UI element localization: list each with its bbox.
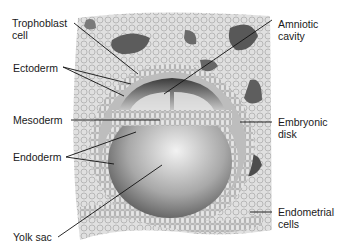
embryo-diagram: Trophoblast cell Ectoderm Mesoderm Endod… — [0, 0, 345, 251]
label-yolk-sac: Yolk sac — [13, 231, 52, 243]
label-mesoderm: Mesoderm — [13, 114, 63, 126]
label-endometrial-cells: Endometrial cells — [278, 206, 334, 230]
label-endoderm: Endoderm — [13, 151, 61, 163]
label-trophoblast-cell: Trophoblast cell — [12, 17, 67, 41]
label-embryonic-disk: Embryonic disk — [278, 116, 328, 140]
label-ectoderm: Ectoderm — [13, 62, 58, 74]
label-amniotic-cavity: Amniotic cavity — [278, 18, 318, 42]
embryonic-disk — [112, 110, 232, 126]
